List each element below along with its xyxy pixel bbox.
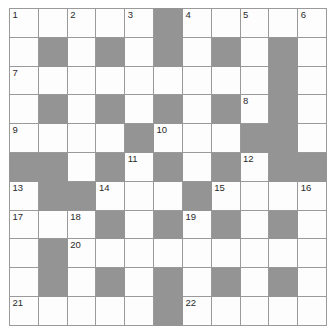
clue-number: 8 (243, 95, 248, 107)
letter-cell[interactable] (211, 239, 240, 268)
letter-cell[interactable] (154, 181, 183, 210)
letter-cell[interactable] (154, 66, 183, 95)
letter-cell[interactable] (38, 296, 67, 325)
letter-cell[interactable] (211, 296, 240, 325)
letter-cell[interactable]: 8 (240, 95, 269, 124)
letter-cell[interactable] (125, 181, 154, 210)
letter-cell[interactable]: 1 (10, 9, 39, 38)
letter-cell[interactable] (298, 124, 327, 153)
letter-cell[interactable] (298, 239, 327, 268)
letter-cell[interactable] (182, 152, 211, 181)
blocked-cell (96, 152, 125, 181)
letter-cell[interactable] (298, 37, 327, 66)
letter-cell[interactable] (67, 95, 96, 124)
crossword-row (10, 268, 327, 297)
crossword-page: 12345678910111213141516171819202122 (0, 0, 327, 329)
letter-cell[interactable] (269, 239, 298, 268)
letter-cell[interactable]: 13 (10, 181, 39, 210)
blocked-cell (38, 239, 67, 268)
letter-cell[interactable] (38, 9, 67, 38)
clue-number: 21 (13, 297, 24, 309)
letter-cell[interactable]: 2 (67, 9, 96, 38)
letter-cell[interactable] (182, 66, 211, 95)
letter-cell[interactable] (240, 37, 269, 66)
letter-cell[interactable]: 10 (154, 124, 183, 153)
letter-cell[interactable]: 22 (182, 296, 211, 325)
letter-cell[interactable] (125, 239, 154, 268)
letter-cell[interactable] (38, 124, 67, 153)
letter-cell[interactable] (96, 296, 125, 325)
letter-cell[interactable] (67, 296, 96, 325)
letter-cell[interactable] (182, 37, 211, 66)
letter-cell[interactable] (240, 239, 269, 268)
blocked-cell (211, 268, 240, 297)
letter-cell[interactable]: 20 (67, 239, 96, 268)
letter-cell[interactable] (298, 66, 327, 95)
crossword-grid[interactable]: 12345678910111213141516171819202122 (9, 8, 327, 326)
letter-cell[interactable] (125, 95, 154, 124)
letter-cell[interactable] (298, 210, 327, 239)
clue-number: 19 (185, 211, 196, 223)
letter-cell[interactable]: 5 (240, 9, 269, 38)
letter-cell[interactable] (240, 268, 269, 297)
letter-cell[interactable] (240, 66, 269, 95)
letter-cell[interactable]: 9 (10, 124, 39, 153)
letter-cell[interactable]: 21 (10, 296, 39, 325)
letter-cell[interactable]: 7 (10, 66, 39, 95)
clue-number: 12 (243, 153, 254, 165)
letter-cell[interactable] (269, 181, 298, 210)
letter-cell[interactable] (38, 210, 67, 239)
letter-cell[interactable] (182, 95, 211, 124)
letter-cell[interactable] (240, 210, 269, 239)
blocked-cell (154, 296, 183, 325)
letter-cell[interactable] (211, 9, 240, 38)
letter-cell[interactable]: 12 (240, 152, 269, 181)
letter-cell[interactable] (10, 268, 39, 297)
letter-cell[interactable] (67, 268, 96, 297)
letter-cell[interactable] (240, 296, 269, 325)
letter-cell[interactable] (269, 9, 298, 38)
letter-cell[interactable]: 14 (96, 181, 125, 210)
letter-cell[interactable]: 4 (182, 9, 211, 38)
letter-cell[interactable] (211, 66, 240, 95)
letter-cell[interactable] (125, 66, 154, 95)
letter-cell[interactable]: 18 (67, 210, 96, 239)
letter-cell[interactable] (125, 296, 154, 325)
letter-cell[interactable] (182, 268, 211, 297)
letter-cell[interactable] (154, 239, 183, 268)
letter-cell[interactable] (182, 124, 211, 153)
letter-cell[interactable]: 19 (182, 210, 211, 239)
letter-cell[interactable]: 11 (125, 152, 154, 181)
letter-cell[interactable] (67, 37, 96, 66)
letter-cell[interactable] (67, 66, 96, 95)
letter-cell[interactable] (96, 239, 125, 268)
letter-cell[interactable]: 16 (298, 181, 327, 210)
clue-number: 2 (70, 9, 75, 21)
letter-cell[interactable] (125, 37, 154, 66)
letter-cell[interactable] (10, 37, 39, 66)
letter-cell[interactable]: 6 (298, 9, 327, 38)
letter-cell[interactable] (269, 296, 298, 325)
letter-cell[interactable]: 17 (10, 210, 39, 239)
letter-cell[interactable] (298, 268, 327, 297)
crossword-row: 13141516 (10, 181, 327, 210)
letter-cell[interactable] (96, 124, 125, 153)
letter-cell[interactable] (67, 124, 96, 153)
letter-cell[interactable] (125, 268, 154, 297)
letter-cell[interactable] (38, 66, 67, 95)
letter-cell[interactable]: 15 (211, 181, 240, 210)
letter-cell[interactable] (96, 66, 125, 95)
letter-cell[interactable] (10, 239, 39, 268)
letter-cell[interactable] (298, 95, 327, 124)
clue-number: 15 (214, 182, 225, 194)
letter-cell[interactable] (125, 210, 154, 239)
letter-cell[interactable] (96, 9, 125, 38)
blocked-cell (211, 210, 240, 239)
letter-cell[interactable]: 3 (125, 9, 154, 38)
letter-cell[interactable] (182, 239, 211, 268)
letter-cell[interactable] (240, 181, 269, 210)
letter-cell[interactable] (67, 152, 96, 181)
letter-cell[interactable] (298, 296, 327, 325)
letter-cell[interactable] (10, 95, 39, 124)
letter-cell[interactable] (211, 124, 240, 153)
